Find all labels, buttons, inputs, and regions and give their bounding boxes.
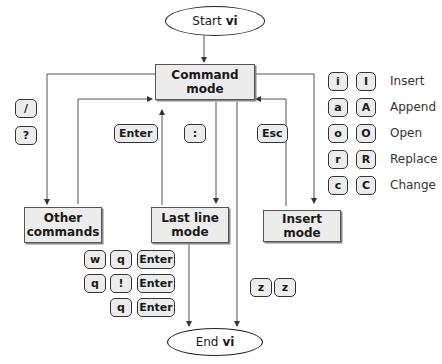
key-label: Enter <box>139 253 173 266</box>
insert-mode-label: Insert mode <box>264 212 340 240</box>
key-q: q <box>84 274 106 293</box>
key-enter: Enter <box>137 274 175 293</box>
key-label: o <box>334 127 342 140</box>
key-bang: ! <box>110 274 132 293</box>
lastline-label-1: Last line <box>161 211 219 225</box>
key-z: z <box>274 278 296 297</box>
key-label: z <box>282 281 288 294</box>
key-label: : <box>193 127 197 140</box>
key-label: I <box>364 75 368 88</box>
key-i: i <box>328 72 348 91</box>
key-slash: / <box>15 99 37 118</box>
key-label: R <box>362 153 370 166</box>
key-label: z <box>258 281 264 294</box>
key-o: o <box>328 124 348 143</box>
key-label: i <box>336 75 340 88</box>
open-label: Open <box>390 126 422 140</box>
key-R: R <box>356 150 376 169</box>
command-mode-label: Command mode <box>156 68 254 96</box>
key-O: O <box>356 124 376 143</box>
key-q: q <box>110 298 132 317</box>
append-label: Append <box>390 100 436 114</box>
key-label: q <box>117 253 125 266</box>
insert-label: Insert <box>390 74 424 88</box>
key-label: c <box>335 179 342 192</box>
other-label-1: Other <box>44 211 83 225</box>
end-vi-label: vi <box>222 335 234 349</box>
lastline-label-2: mode <box>171 225 208 239</box>
key-label: Esc <box>262 127 283 140</box>
key-label: a <box>334 101 341 114</box>
change-label: Change <box>390 178 436 192</box>
end-vi-node: Endvi <box>167 328 263 356</box>
key-label: w <box>90 253 100 266</box>
key-question: ? <box>15 126 37 145</box>
key-label: / <box>24 102 28 115</box>
key-c: c <box>328 176 348 195</box>
end-label: End <box>196 335 219 349</box>
other-label-2: commands <box>27 225 100 239</box>
key-enter: Enter <box>114 124 158 143</box>
key-colon: : <box>184 124 206 143</box>
start-vi-node: Startvi <box>165 6 265 36</box>
key-label: Enter <box>139 301 173 314</box>
key-label: ? <box>23 129 29 142</box>
key-label: q <box>117 301 125 314</box>
key-r: r <box>328 150 348 169</box>
replace-label: Replace <box>390 152 437 166</box>
insert-mode-node: Insert mode <box>263 210 341 242</box>
key-label: C <box>362 179 370 192</box>
key-label: ! <box>118 277 123 290</box>
key-q: q <box>110 250 132 269</box>
key-label: Enter <box>119 127 153 140</box>
key-enter: Enter <box>137 298 175 317</box>
key-enter: Enter <box>137 250 175 269</box>
key-label: A <box>362 101 371 114</box>
key-C: C <box>356 176 376 195</box>
command-mode-node: Command mode <box>155 64 255 100</box>
key-esc: Esc <box>257 124 288 143</box>
start-vi-label: vi <box>226 14 238 28</box>
key-I: I <box>356 72 376 91</box>
other-commands-node: Other commands <box>24 207 102 243</box>
key-label: O <box>361 127 370 140</box>
key-w: w <box>84 250 106 269</box>
key-z: z <box>250 278 272 297</box>
key-label: r <box>335 153 340 166</box>
key-a: a <box>328 98 348 117</box>
key-A: A <box>356 98 376 117</box>
key-label: Enter <box>139 277 173 290</box>
last-line-mode-node: Last line mode <box>151 207 229 243</box>
start-label: Start <box>192 14 221 28</box>
key-label: q <box>91 277 99 290</box>
